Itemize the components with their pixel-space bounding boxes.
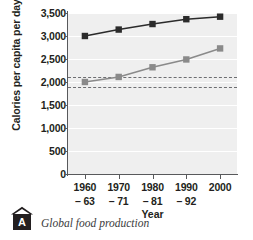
- series-layer: [68, 13, 237, 174]
- y-tick-label: 2,500: [20, 53, 66, 65]
- data-point-marker: [183, 56, 189, 62]
- data-point-marker: [217, 45, 223, 51]
- plot-area: [68, 13, 237, 174]
- y-axis-tick-labels: 05001,0001,5002,0002,5003,0003,500: [18, 0, 66, 182]
- y-tick-label: 3,000: [20, 30, 66, 42]
- figure-caption: A Global food production: [10, 206, 149, 232]
- data-point-marker: [217, 13, 223, 19]
- x-tick-mark: [220, 175, 221, 179]
- y-tick-label: 3,500: [20, 7, 66, 19]
- y-tick-label: 2,000: [20, 76, 66, 88]
- y-tick-label: 1,500: [20, 99, 66, 111]
- figure-global-food-production: Calories per capita per day 05001,0001,5…: [0, 0, 253, 240]
- y-tick-label: 500: [20, 145, 66, 157]
- figure-caption-text: Global food production: [41, 217, 149, 229]
- data-point-marker: [82, 33, 88, 39]
- data-point-marker: [149, 64, 155, 70]
- x-tick-label: 2000: [190, 181, 250, 195]
- y-tick-label: 1,000: [20, 122, 66, 134]
- data-point-marker: [149, 21, 155, 27]
- data-point-marker: [116, 74, 122, 80]
- data-point-marker: [116, 26, 122, 32]
- x-tick-mark: [186, 175, 187, 179]
- x-tick-mark: [119, 175, 120, 179]
- x-tick-mark: [85, 175, 86, 179]
- x-tick-mark: [153, 175, 154, 179]
- figure-badge-letter: A: [13, 214, 31, 230]
- data-point-marker: [183, 16, 189, 22]
- data-point-marker: [82, 79, 88, 85]
- figure-badge: A: [10, 206, 34, 232]
- y-tick-label: 0: [20, 168, 66, 180]
